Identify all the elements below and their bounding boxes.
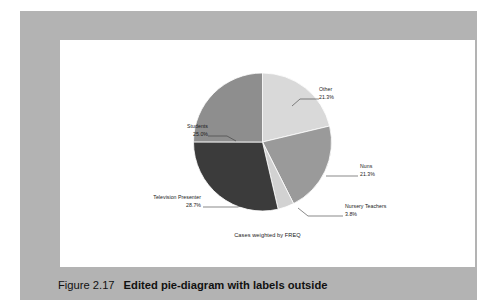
pie-label-students-name: Students <box>187 123 208 129</box>
pie-label-television-presenter: Television Presenter 28.7% <box>113 194 201 209</box>
pie-label-nuns-name: Nuns <box>360 163 372 169</box>
pie-slices-group <box>193 73 331 211</box>
pie-label-other-percent: 21.3% <box>319 94 334 102</box>
pie-label-other-name: Other <box>319 86 332 92</box>
figure-caption: Figure 2.17Edited pie-diagram with label… <box>58 279 328 291</box>
figure-frame-band: Other 21.3% Students 25.0% Nuns 21.3% Nu… <box>20 11 477 300</box>
pie-label-nuns: Nuns 21.3% <box>360 163 375 178</box>
pie-label-television-presenter-percent: 28.7% <box>113 202 201 210</box>
pie-label-nuns-percent: 21.3% <box>360 171 375 179</box>
leader-line-nursery-teachers <box>298 208 343 216</box>
figure-caption-number: Figure 2.17 <box>58 279 115 291</box>
pie-label-students-percent: 25.0% <box>142 131 208 139</box>
figure-caption-text: Edited pie-diagram with labels outside <box>124 279 328 291</box>
pie-label-television-presenter-name: Television Presenter <box>153 194 201 200</box>
chart-subtitle: Cases weighted by FREQ <box>60 232 475 238</box>
pie-label-other: Other 21.3% <box>319 86 334 101</box>
pie-label-nursery-teachers: Nursery Teachers 3.8% <box>345 203 386 218</box>
pie-chart-area: Other 21.3% Students 25.0% Nuns 21.3% Nu… <box>60 40 475 267</box>
pie-label-students: Students 25.0% <box>142 123 208 138</box>
pie-label-nursery-teachers-name: Nursery Teachers <box>345 203 386 209</box>
figure-white-panel: Other 21.3% Students 25.0% Nuns 21.3% Nu… <box>60 40 475 267</box>
pie-label-nursery-teachers-percent: 3.8% <box>345 211 386 219</box>
figure-page: Other 21.3% Students 25.0% Nuns 21.3% Nu… <box>0 0 494 307</box>
